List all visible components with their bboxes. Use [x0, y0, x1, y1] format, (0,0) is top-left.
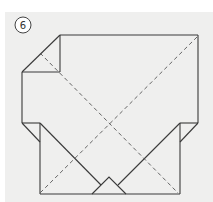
origami-diagram: 6: [0, 0, 213, 202]
step-badge: 6: [15, 17, 31, 33]
valley-fold-lines: [40, 37, 197, 193]
fold-outline: [22, 35, 198, 194]
step-number: 6: [20, 20, 26, 31]
